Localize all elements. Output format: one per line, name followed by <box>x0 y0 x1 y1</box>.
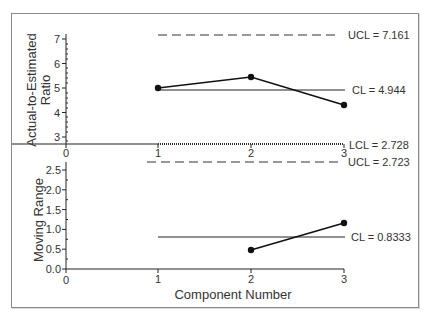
top-series-line <box>158 77 344 105</box>
bottom-point-3 <box>341 220 347 226</box>
bottom-y-tick-labels: 0.0 0.5 1.0 1.5 2.0 2.5 <box>46 164 61 275</box>
bottom-cl-label: CL = 0.8333 <box>351 231 411 243</box>
top-point-3 <box>341 102 347 108</box>
top-xtick-1: 1 <box>155 147 161 159</box>
top-ylabel-line2: Ratio <box>38 75 53 105</box>
top-ytick-5: 5 <box>54 82 60 94</box>
top-ytick-4: 4 <box>54 107 60 119</box>
bottom-y-label: Moving Range <box>31 178 46 262</box>
x-axis-label: Component Number <box>174 287 292 302</box>
bottom-ytick-0-5: 0.5 <box>46 243 61 255</box>
bottom-x-tick-labels: 0 1 2 3 <box>63 273 347 286</box>
bottom-point-2 <box>248 247 254 253</box>
top-x-tick-labels: 0 1 2 3 <box>63 147 347 159</box>
bottom-xtick-3: 3 <box>341 273 347 285</box>
top-xtick-3: 3 <box>341 147 347 159</box>
bottom-y-ticks <box>62 170 66 269</box>
bottom-xtick-0: 0 <box>63 274 69 286</box>
top-y-label: Actual-to-Estimated Ratio <box>24 33 53 146</box>
top-point-1 <box>155 85 161 91</box>
bottom-xtick-2: 2 <box>248 273 254 285</box>
top-ytick-6: 6 <box>54 58 60 70</box>
bottom-chart: 0.0 0.5 1.0 1.5 2.0 2.5 0 1 2 3 UCL = 2.… <box>31 156 411 302</box>
top-ucl-label: UCL = 7.161 <box>348 29 410 41</box>
top-ytick-3: 3 <box>54 131 60 143</box>
bottom-ytick-1-5: 1.5 <box>46 204 61 216</box>
bottom-ytick-0: 0.0 <box>46 263 61 275</box>
top-point-2 <box>248 74 254 80</box>
top-xtick-2: 2 <box>248 147 254 159</box>
top-ytick-7: 7 <box>54 33 60 45</box>
bottom-ucl-label: UCL = 2.723 <box>348 156 410 168</box>
top-cl-label: CL = 4.944 <box>352 84 406 96</box>
control-chart: 7 6 5 4 3 0 1 2 3 UC <box>0 0 436 327</box>
bottom-ytick-2-5: 2.5 <box>46 164 61 176</box>
top-xtick-0: 0 <box>63 147 69 159</box>
top-ylabel-line1: Actual-to-Estimated <box>24 33 39 146</box>
top-chart: 7 6 5 4 3 0 1 2 3 UC <box>12 29 410 159</box>
bottom-ytick-2-0: 2.0 <box>46 184 61 196</box>
top-y-ticks: 7 6 5 4 3 <box>54 33 66 143</box>
top-lcl-label: LCL = 2.728 <box>349 139 409 151</box>
bottom-ytick-1-0: 1.0 <box>46 223 61 235</box>
bottom-xtick-1: 1 <box>155 273 161 285</box>
